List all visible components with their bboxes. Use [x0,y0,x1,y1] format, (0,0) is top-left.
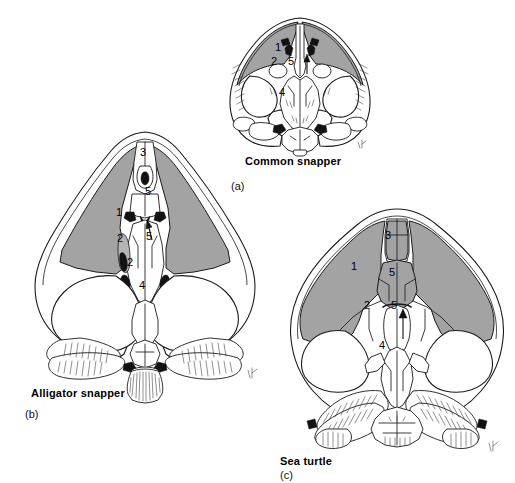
label-b-3: 3 [140,147,146,158]
label-a-5: 5 [288,56,294,67]
caption-alligator-snapper: Alligator snapper [31,387,125,399]
label-b-2-upper: 2 [117,233,123,244]
sea-turtle-skull-drawing [285,205,510,455]
label-a-1: 1 [275,42,281,53]
panel-letter-c: (c) [280,469,293,481]
panel-sea-turtle [285,205,510,455]
panel-alligator-snapper [20,128,270,403]
label-b-5-lower: 5 [146,231,152,242]
label-c-5-lower: 5 [391,300,397,311]
caption-sea-turtle: Sea turtle [280,455,332,467]
panel-letter-b: (b) [25,408,38,420]
label-a-2: 2 [271,56,277,67]
label-c-4: 4 [379,340,385,351]
label-b-2-lower: 2 [127,257,133,268]
label-c-3: 3 [385,230,391,241]
label-b-5-upper: 5 [145,186,151,197]
label-c-2: 2 [364,300,370,311]
alligator-snapper-skull-drawing [20,128,270,403]
label-c-1: 1 [351,261,357,272]
label-b-4: 4 [139,280,145,291]
label-c-5-upper: 5 [389,267,395,278]
label-a-4: 4 [279,87,285,98]
figure-container: 1 2 5 4 Common snapper (a) [0,0,515,483]
label-b-1: 1 [116,207,122,218]
